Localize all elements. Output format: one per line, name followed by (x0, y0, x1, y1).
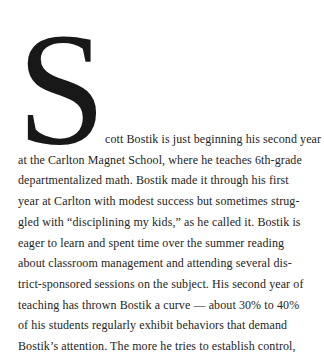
article-paragraph: cott Bostik is just beginning his second… (18, 129, 318, 357)
book-page: S cott Bostik is just beginning his seco… (0, 0, 324, 358)
